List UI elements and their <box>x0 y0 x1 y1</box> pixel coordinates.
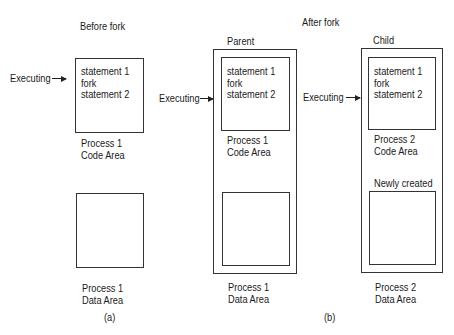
arrow-right-icon <box>346 97 360 98</box>
code-line: statement 1 <box>227 66 275 78</box>
code-listing: statement 1 fork statement 2 <box>227 66 275 101</box>
parent-code-area-label: Process 1 Code Area <box>227 134 271 158</box>
process1-data-area-label: Process 1 Data Area <box>82 282 123 306</box>
process1-code-box: statement 1 fork statement 2 <box>75 58 144 133</box>
area-name: Data Area <box>82 294 123 306</box>
process-name: Process 2 <box>375 281 416 293</box>
parent-data-area-label: Process 1 Data Area <box>228 281 269 305</box>
child-data-box <box>369 191 436 265</box>
code-listing: statement 1 fork statement 2 <box>81 66 129 101</box>
child-code-area-label: Process 2 Code Area <box>374 133 418 157</box>
parent-code-box: statement 1 fork statement 2 <box>221 57 290 131</box>
parent-data-box <box>222 192 290 266</box>
code-line: statement 1 <box>374 66 422 78</box>
executing-label: Executing <box>10 72 51 84</box>
area-name: Code Area <box>374 145 418 157</box>
area-name: Data Area <box>375 293 416 305</box>
newly-created-note: Newly created <box>374 177 433 189</box>
code-line: statement 2 <box>81 89 129 101</box>
after-fork-heading: After fork <box>302 16 339 28</box>
process1-code-area-label: Process 1 Code Area <box>81 137 125 161</box>
arrow-right-icon <box>200 98 213 99</box>
caption-a: (a) <box>104 311 115 323</box>
area-name: Data Area <box>228 293 269 305</box>
child-title: Child <box>373 34 394 46</box>
before-fork-heading: Before fork <box>80 20 125 32</box>
child-code-box: statement 1 fork statement 2 <box>368 57 436 130</box>
arrow-right-icon <box>52 78 66 79</box>
process-name: Process 1 <box>82 282 123 294</box>
code-line: statement 2 <box>227 89 275 101</box>
executing-label: Executing <box>159 92 200 104</box>
executing-label: Executing <box>303 91 344 103</box>
code-listing: statement 1 fork statement 2 <box>374 66 422 101</box>
process-name: Process 1 <box>227 134 271 146</box>
parent-title: Parent <box>227 35 254 47</box>
area-name: Code Area <box>227 146 271 158</box>
child-data-area-label: Process 2 Data Area <box>375 281 416 305</box>
process-name: Process 2 <box>374 133 418 145</box>
process-name: Process 1 <box>228 281 269 293</box>
process1-data-box <box>76 193 144 268</box>
caption-b: (b) <box>324 311 335 323</box>
area-name: Code Area <box>81 149 125 161</box>
code-line: statement 2 <box>374 89 422 101</box>
process-name: Process 1 <box>81 137 125 149</box>
code-line: statement 1 <box>81 66 129 78</box>
